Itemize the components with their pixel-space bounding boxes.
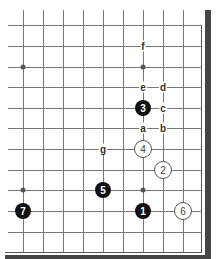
star-point xyxy=(21,65,26,70)
move-label-c[interactable]: c xyxy=(159,103,167,114)
move-label-e[interactable]: e xyxy=(139,82,147,93)
black-stone-7[interactable]: 7 xyxy=(15,203,31,219)
grid-line-horizontal xyxy=(8,87,202,88)
move-label-g[interactable]: g xyxy=(99,144,107,155)
white-stone-4[interactable]: 4 xyxy=(134,140,152,158)
go-board: fedcabg 1234567 xyxy=(0,0,218,259)
grid-line-horizontal xyxy=(8,108,202,109)
white-stone-6[interactable]: 6 xyxy=(174,202,192,220)
black-stone-5[interactable]: 5 xyxy=(95,182,111,198)
white-stone-2[interactable]: 2 xyxy=(154,161,172,179)
move-label-d[interactable]: d xyxy=(159,82,167,93)
grid-line-horizontal xyxy=(8,170,202,171)
grid-line-horizontal xyxy=(8,211,202,212)
move-label-a[interactable]: a xyxy=(139,123,147,134)
board-bottom-border xyxy=(5,255,211,259)
grid-line-horizontal xyxy=(8,25,202,26)
board-right-edge-line xyxy=(201,25,202,253)
grid-line-horizontal xyxy=(8,46,202,47)
star-point xyxy=(141,188,146,193)
grid-line-horizontal xyxy=(8,232,202,233)
grid-line-horizontal xyxy=(8,67,202,68)
grid-line-horizontal xyxy=(8,128,202,129)
black-stone-1[interactable]: 1 xyxy=(135,203,151,219)
black-stone-3[interactable]: 3 xyxy=(135,100,151,116)
board-right-border xyxy=(205,10,211,259)
move-label-f[interactable]: f xyxy=(140,41,145,52)
star-point xyxy=(21,188,26,193)
move-label-b[interactable]: b xyxy=(159,123,167,134)
star-point xyxy=(141,65,146,70)
